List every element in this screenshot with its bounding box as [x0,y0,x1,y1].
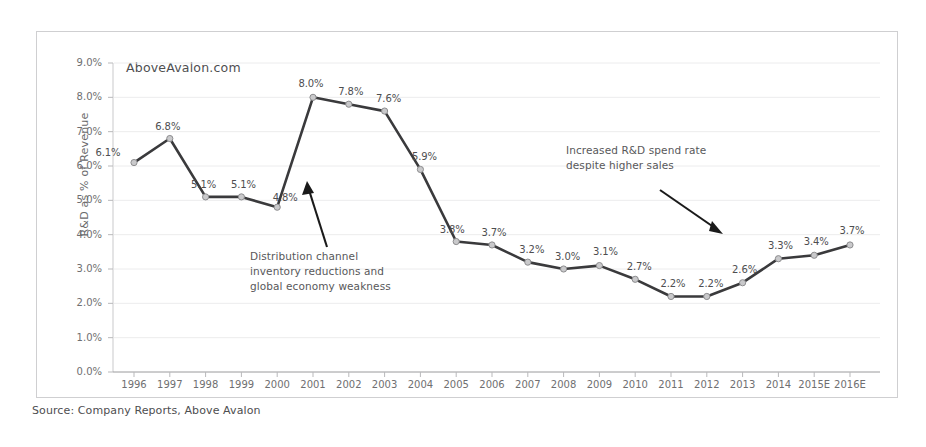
data-point-label: 2.6% [724,264,766,275]
gridlines [114,63,880,338]
y-axis-tick-marks [108,63,113,372]
data-point-label: 6.8% [147,121,189,132]
y-tick-label: 1.0% [56,332,102,343]
data-point-label: 2.7% [618,261,660,272]
y-tick-label: 8.0% [56,91,102,102]
source-caption: Source: Company Reports, Above Avalon [32,404,261,417]
y-tick-label: 3.0% [56,263,102,274]
data-point-label: 8.0% [290,78,332,89]
x-tick-label: 2016E [827,379,873,390]
data-point-label: 7.6% [368,93,410,104]
data-point-label: 2.2% [690,278,732,289]
y-tick-label: 2.0% [56,297,102,308]
y-tick-label: 7.0% [56,126,102,137]
data-point-label: 7.8% [330,86,372,97]
data-point-label: 3.1% [584,246,626,257]
y-tick-label: 4.0% [56,229,102,240]
data-point-label: 3.7% [831,225,873,236]
data-point-label: 3.7% [473,227,515,238]
data-point-label: 3.4% [795,236,837,247]
data-point-label: 4.8% [264,192,306,203]
data-point-label: 6.1% [87,147,129,158]
annotation-distribution-channel: Distribution channel inventory reduction… [250,249,391,294]
data-point-label: 3.8% [431,224,473,235]
x-axis-tick-marks [134,372,850,377]
y-tick-label: 9.0% [56,57,102,68]
data-point-label: 5.9% [403,151,445,162]
data-point-label: 5.1% [222,179,264,190]
y-tick-label: 5.0% [56,194,102,205]
annotation-arrow-increased-spend [660,190,723,234]
annotation-arrow-distribution [302,181,327,247]
data-point-label: 2.2% [652,278,694,289]
annotation-increased-rd-spend: Increased R&D spend rate despite higher … [566,143,706,173]
data-point-label: 3.0% [547,251,589,262]
data-point-label: 5.1% [183,179,225,190]
y-tick-label: 0.0% [56,366,102,377]
y-tick-label: 6.0% [56,160,102,171]
